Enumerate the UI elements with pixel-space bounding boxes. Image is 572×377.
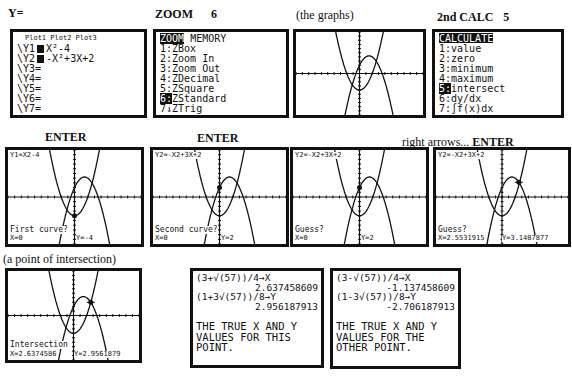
- y-value: Y=3.1407877: [502, 235, 548, 242]
- zoom-key-text: ZOOM: [155, 7, 193, 21]
- menu-item[interactable]: 7:∫f(x)dx: [439, 104, 557, 114]
- y-value: Y=-4: [76, 235, 93, 242]
- label-zoom-key: ZOOM6: [155, 7, 217, 22]
- x-value: X=2.6374586: [10, 351, 56, 358]
- note-line: POINT.: [196, 342, 318, 353]
- first-curve-screen: Y1=X2-4 First curve? X=0 Y=-4: [5, 147, 144, 247]
- menu-item-label: ZTrig: [172, 103, 202, 114]
- prompt-text: Guess?: [295, 226, 324, 234]
- prompt-text: Second curve?: [155, 226, 218, 234]
- note-line: OTHER POINT.: [336, 342, 455, 353]
- intersection-screen: Intersection X=2.6374586 Y=2.9561879: [5, 268, 142, 363]
- y-var-name: \Y7: [17, 103, 35, 114]
- label-enter-2: ENTER: [197, 131, 238, 146]
- y-editor-screen: Plot1 Plot2 Plot3 \Y1X²-4\Y2-X²+3X+2\Y3=…: [10, 29, 147, 118]
- label-point-of-intersection: (a point of intersection): [3, 252, 116, 267]
- zoom-menu-screen: ZOOM MEMORY 1:ZBox2:Zoom In3:Zoom Out4:Z…: [153, 29, 289, 118]
- equation-text: Y2=-X2+3X+2: [295, 152, 341, 159]
- y-value: Y=2: [361, 235, 374, 242]
- home-screen-other-point: (3-√(57))/4→X -1.137458609 (1-3√(57))/8→…: [330, 268, 461, 369]
- prompt-text: Intersection: [10, 341, 68, 349]
- equals-selected-icon[interactable]: [37, 45, 44, 53]
- prompt-text: First curve?: [10, 226, 68, 234]
- x-value: X=0: [295, 235, 308, 242]
- graph-plot: [296, 32, 423, 115]
- calc-num-text: 5: [503, 10, 509, 24]
- equation-text: Y2=-X2+3X+2: [438, 152, 484, 159]
- y-equation[interactable]: =: [35, 103, 41, 114]
- x-value: X=0: [10, 235, 23, 242]
- menu-item-label: ∫f(x)dx: [451, 103, 493, 114]
- equation-text: Y1=X2-4: [10, 152, 40, 159]
- label-y-equals: Y=: [8, 6, 24, 21]
- y-value: Y=2: [221, 235, 234, 242]
- menu-item[interactable]: 7↓ZTrig: [160, 104, 282, 114]
- result-y: -2.706187913: [336, 302, 455, 312]
- y-value: Y=2.9561879: [74, 351, 120, 358]
- menu-item-number: 7↓: [160, 103, 172, 114]
- equation-text: Y2=-X2+3X+2: [155, 152, 201, 159]
- x-value: X=0: [155, 235, 168, 242]
- calc-menu-screen: CALCULATE 1:value2:zero3:minimum4:maximu…: [432, 29, 564, 118]
- menu-item-number: 7:: [439, 103, 451, 114]
- result-y: 2.956187913: [196, 302, 318, 312]
- zoom-num-text: 6: [211, 7, 217, 21]
- label-enter-1: ENTER: [45, 130, 86, 145]
- label-calc-key: 2nd CALC5: [437, 10, 509, 25]
- x-value: X=2.5531915: [438, 235, 484, 242]
- note-line: THE TRUE X AND Y: [196, 321, 318, 332]
- guess-screen-1: Y2=-X2+3X+2 Guess? X=0 Y=2: [290, 147, 429, 247]
- y-equation[interactable]: -X²+3X+2: [46, 53, 94, 64]
- home-screen-this-point: (3+√(57))/4→X 2.637458609 (1+3√(57))/8→Y…: [190, 268, 324, 368]
- y-editor-row[interactable]: \Y7=: [17, 104, 140, 114]
- calc-key-text: 2nd CALC: [437, 10, 493, 24]
- graph-screen: [293, 29, 426, 118]
- prompt-text: Guess?: [438, 226, 467, 234]
- label-the-graphs: (the graphs): [296, 8, 354, 23]
- equals-selected-icon[interactable]: [37, 55, 44, 63]
- second-curve-screen: Y2=-X2+3X+2 Second curve? X=0 Y=2: [150, 147, 289, 247]
- plot-row: Plot1 Plot2 Plot3: [25, 35, 140, 42]
- guess-screen-2: Y2=-X2+3X+2 Guess? X=2.5531915 Y=3.14078…: [433, 147, 571, 247]
- note-line: THE TRUE X AND Y: [336, 321, 455, 332]
